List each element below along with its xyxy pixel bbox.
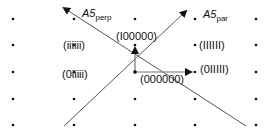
label-0iiiii: (0iiiii) (62, 68, 88, 80)
lattice-dot (194, 18, 197, 21)
lattice-dot (12, 44, 15, 47)
lattice-dot (194, 71, 197, 74)
lattice-dot (134, 124, 137, 127)
label-I00000: (I00000) (116, 30, 157, 42)
lattice-dot (194, 44, 197, 47)
label-000000: (000000) (140, 73, 184, 85)
lattice-dot (255, 18, 258, 21)
label-iiiiii: (iiiiii) (63, 39, 85, 51)
lattice-dot (12, 18, 15, 21)
label-IIIIII: (IIIIII) (199, 39, 225, 51)
lattice-dot (194, 124, 197, 127)
lattice-dot (73, 98, 76, 101)
axis-par-label: A5par (202, 8, 228, 23)
lattice-dot (194, 98, 197, 101)
lattice-dot (73, 124, 76, 127)
lattice-dot (255, 98, 258, 101)
lattice-dot (134, 98, 137, 101)
lattice-dot (12, 98, 15, 101)
origin-point (133, 70, 137, 74)
lattice-diagram: A5perp A5par (I00000) (IIIIII) (iiiiii) … (0, 0, 274, 139)
lattice-dot (73, 18, 76, 21)
lattice-dot (255, 71, 258, 74)
lattice-dot (255, 124, 258, 127)
label-0IIIII: (0IIIII) (200, 63, 229, 75)
lattice-dot (134, 18, 137, 21)
lattice-dot (134, 44, 137, 47)
lattice-dot (12, 71, 15, 74)
lattice-dot (12, 124, 15, 127)
axis-perp-label: A5perp (81, 7, 112, 22)
lattice-dot (255, 44, 258, 47)
